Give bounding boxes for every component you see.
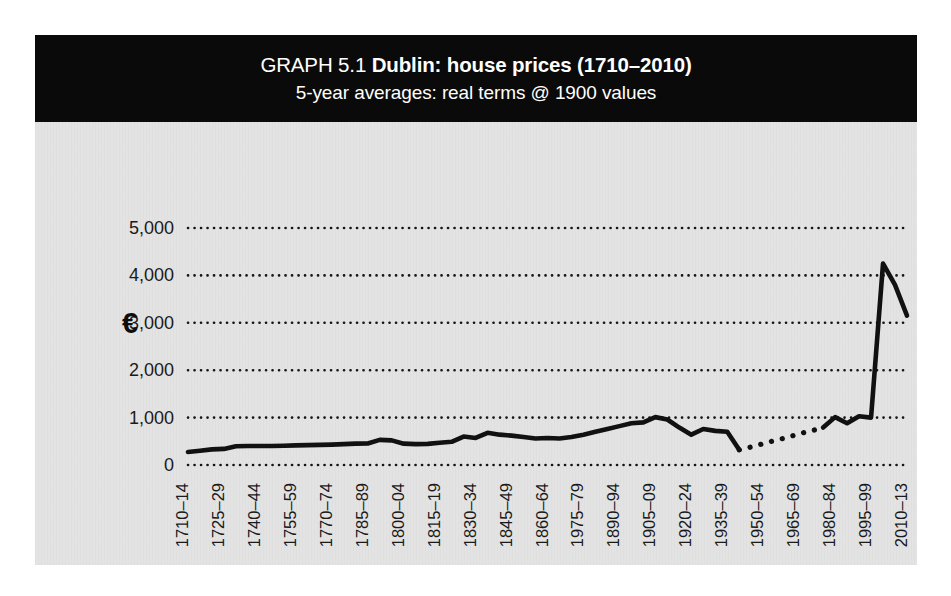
x-axis-labels: 1710–141725–291740–441755–591770–741785–…: [173, 483, 910, 547]
price-series-estimated: [739, 428, 823, 450]
chart-title-main: Dublin: house prices (1710–2010): [372, 53, 692, 76]
y-axis-tick-label: 0: [164, 455, 174, 475]
x-axis-tick-label: 1830–34: [461, 483, 479, 547]
x-axis-tick-label: 1860–64: [533, 483, 551, 547]
x-axis-tick-label: 1815–19: [425, 483, 443, 547]
y-axis-tick-label: 5,000: [129, 218, 174, 238]
x-axis-tick-label: 1965–69: [784, 483, 802, 547]
price-series-solid-late: [823, 264, 907, 428]
chart-plot-area: 01,0002,0003,0004,0005,000 € 1710–141725…: [35, 122, 917, 565]
y-axis-tick-label: 1,000: [129, 408, 174, 428]
y-axis-labels: 01,0002,0003,0004,0005,000: [129, 218, 174, 475]
chart-title: GRAPH 5.1 Dublin: house prices (1710–201…: [260, 52, 691, 78]
chart-title-prefix: GRAPH 5.1: [260, 53, 371, 76]
x-axis-tick-label: 1995–99: [856, 483, 874, 547]
chart-title-banner: GRAPH 5.1 Dublin: house prices (1710–201…: [35, 35, 917, 122]
x-axis-tick-label: 1710–14: [173, 483, 191, 547]
x-axis-tick-label: 1905–09: [640, 483, 658, 547]
x-axis-tick-label: 1950–54: [748, 483, 766, 547]
x-axis-tick-label: 1725–29: [209, 483, 227, 547]
chart-subtitle: 5-year averages: real terms @ 1900 value…: [296, 80, 657, 105]
y-axis-currency-symbol: €: [122, 307, 138, 339]
x-axis-tick-label: 1980–84: [820, 483, 838, 547]
x-axis-tick-label: 1770–74: [317, 483, 335, 547]
x-axis-tick-label: 1740–44: [245, 483, 263, 547]
x-axis-tick-label: 1800–04: [389, 483, 407, 547]
x-axis-tick-label: 1935–39: [712, 483, 730, 547]
y-axis-tick-label: 4,000: [129, 265, 174, 285]
price-series-solid-early: [188, 417, 739, 452]
x-axis-tick-label: 1890–94: [604, 483, 622, 547]
x-axis-tick-label: 1920–24: [676, 483, 694, 547]
x-axis-tick-label: 2010–13: [892, 483, 910, 547]
chart-svg: 01,0002,0003,0004,0005,000 € 1710–141725…: [35, 122, 917, 565]
gridline-group: [188, 228, 907, 465]
chart-figure: GRAPH 5.1 Dublin: house prices (1710–201…: [35, 35, 917, 565]
x-axis-tick-label: 1755–59: [281, 483, 299, 547]
y-axis-tick-label: 2,000: [129, 360, 174, 380]
x-axis-tick-label: 1785–89: [353, 483, 371, 547]
x-axis-tick-label: 1975–79: [568, 483, 586, 547]
x-axis-tick-label: 1845–49: [497, 483, 515, 547]
